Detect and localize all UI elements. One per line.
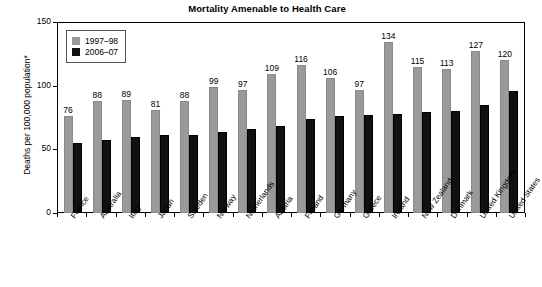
bar-1997-98: 76 xyxy=(64,116,73,213)
bar-1997-98: 97 xyxy=(238,90,247,214)
bar-value-label: 81 xyxy=(151,99,160,109)
chart-legend: 1997–98 2006–07 xyxy=(66,30,126,63)
bar-group: 97 xyxy=(349,23,378,213)
bar-1997-98: 81 xyxy=(151,110,160,213)
bar-1997-98: 134 xyxy=(384,42,393,213)
y-tick-mark xyxy=(53,22,57,23)
y-tick-label: 0 xyxy=(21,207,51,217)
bar-value-label: 113 xyxy=(440,58,454,68)
bar-group: 106 xyxy=(320,23,349,213)
y-axis-title: Deaths per 100,000 population* xyxy=(22,25,32,205)
legend-swatch-new-icon xyxy=(72,48,80,56)
bar-value-label: 109 xyxy=(265,63,279,73)
bar-value-label: 134 xyxy=(381,31,395,41)
bar-groups: 7688898188999710911610697134115113127120 xyxy=(58,23,524,213)
bar-value-label: 76 xyxy=(63,105,72,115)
bar-group: 88 xyxy=(175,23,204,213)
bar-2006-07 xyxy=(451,111,460,213)
chart-title: Mortality Amenable to Health Care xyxy=(0,3,534,14)
bar-value-label: 88 xyxy=(92,90,101,100)
bar-1997-98: 99 xyxy=(209,87,218,213)
bar-2006-07 xyxy=(509,91,518,213)
legend-label-old: 1997–98 xyxy=(85,36,118,46)
bar-value-label: 99 xyxy=(209,76,218,86)
bar-1997-98: 115 xyxy=(413,67,422,213)
bar-group: 116 xyxy=(291,23,320,213)
bar-value-label: 89 xyxy=(122,89,131,99)
bar-group: 97 xyxy=(233,23,262,213)
bar-value-label: 97 xyxy=(238,79,247,89)
bar-value-label: 115 xyxy=(411,56,425,66)
bar-value-label: 116 xyxy=(294,54,308,64)
y-tick-mark xyxy=(53,86,57,87)
y-tick-label: 150 xyxy=(21,16,51,26)
bar-group: 127 xyxy=(466,23,495,213)
bar-group: 81 xyxy=(145,23,174,213)
bar-1997-98: 88 xyxy=(180,101,189,213)
y-tick-label: 50 xyxy=(21,143,51,153)
y-tick-mark xyxy=(53,149,57,150)
bar-value-label: 127 xyxy=(469,40,483,50)
bar-1997-98: 88 xyxy=(93,101,102,213)
legend-label-new: 2006–07 xyxy=(85,47,118,57)
bar-group: 99 xyxy=(204,23,233,213)
bar-value-label: 106 xyxy=(323,67,337,77)
x-axis-labels: FranceAustraliaItalyJapanSwedenNorwayNet… xyxy=(57,215,525,287)
bar-group: 134 xyxy=(378,23,407,213)
y-tick-label: 100 xyxy=(21,80,51,90)
legend-item-2006-07: 2006–07 xyxy=(72,47,118,57)
legend-swatch-old-icon xyxy=(72,37,80,45)
bar-2006-07 xyxy=(131,137,140,213)
bar-2006-07 xyxy=(422,112,431,213)
bar-group: 115 xyxy=(408,23,437,213)
bar-1997-98: 89 xyxy=(122,100,131,213)
legend-item-1997-98: 1997–98 xyxy=(72,36,118,46)
bar-value-label: 88 xyxy=(180,90,189,100)
x-tick-mark xyxy=(525,213,526,217)
bar-value-label: 97 xyxy=(355,79,364,89)
bar-2006-07 xyxy=(480,105,489,213)
bar-1997-98: 116 xyxy=(297,65,306,213)
bar-value-label: 120 xyxy=(498,49,512,59)
bar-1997-98: 127 xyxy=(471,51,480,213)
bar-1997-98: 106 xyxy=(326,78,335,213)
